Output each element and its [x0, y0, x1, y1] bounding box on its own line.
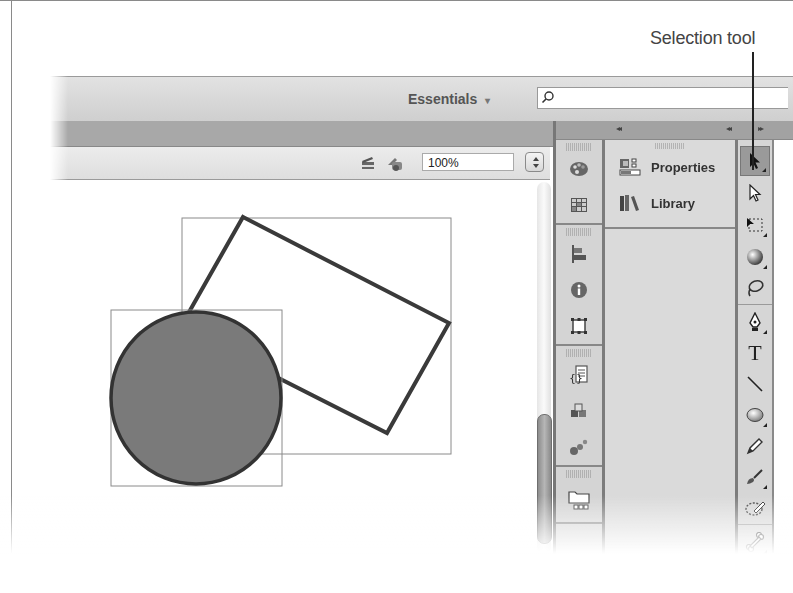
library-icon: [619, 194, 641, 212]
pencil-tool[interactable]: [740, 431, 770, 461]
info-icon: [570, 281, 588, 299]
flyout-indicator: [763, 423, 767, 427]
align-panel-button[interactable]: [556, 236, 602, 272]
stage-canvas[interactable]: [50, 180, 535, 593]
line-tool[interactable]: [740, 369, 770, 399]
search-icon: [541, 90, 555, 104]
dock-group-project: [556, 470, 602, 524]
zoom-stepper[interactable]: [525, 152, 544, 172]
scrollbar-thumb[interactable]: [537, 414, 552, 544]
brush-icon: [745, 467, 765, 487]
grip-handle[interactable]: [655, 143, 685, 149]
gray-circle-shape[interactable]: [111, 312, 281, 484]
actions-code-icon: {}: [569, 365, 589, 385]
transform-panel-button[interactable]: [556, 308, 602, 344]
info-panel-button[interactable]: [556, 272, 602, 308]
selection-tool[interactable]: [740, 146, 770, 176]
flyout-indicator: [762, 168, 766, 172]
tab-properties[interactable]: Properties: [605, 149, 735, 185]
properties-icon: [619, 158, 641, 176]
workspace-label: Essentials: [408, 91, 477, 107]
3d-sphere-icon: [745, 247, 765, 267]
pen-nib-icon: [747, 312, 763, 332]
clapperboard-icon[interactable]: [360, 156, 376, 170]
text-t-icon: T: [748, 340, 761, 366]
transform-icon: [570, 317, 588, 335]
grip-handle[interactable]: [566, 143, 592, 151]
figure-border-left: [11, 0, 12, 593]
stage-artwork: [50, 180, 535, 593]
properties-library-panel: Properties Library: [605, 140, 735, 593]
hollow-arrow-icon: [748, 184, 762, 202]
flyout-indicator: [763, 330, 767, 334]
bone-icon: [745, 532, 765, 552]
grip-handle[interactable]: [566, 228, 592, 236]
tab-label: Library: [651, 196, 695, 211]
deco-icon: [744, 499, 766, 517]
help-search-field[interactable]: [537, 87, 788, 109]
edit-symbols-icon[interactable]: [386, 156, 404, 172]
selection-tool-callout: Selection tool: [650, 28, 755, 49]
collapse-panel-icon[interactable]: ◂◂: [726, 124, 730, 133]
svg-text:{}: {}: [569, 372, 583, 385]
dock-group-color: [556, 143, 602, 225]
tool-separator: [738, 304, 772, 305]
motion-presets-panel-button[interactable]: [556, 429, 602, 465]
swatches-grid-icon: [571, 198, 587, 212]
stage-vertical-scrollbar[interactable]: [535, 180, 553, 560]
panel-tabs: Properties Library: [605, 143, 735, 229]
zoom-level-field[interactable]: 100%: [422, 153, 514, 171]
oval-icon: [745, 406, 765, 424]
collapse-dock-icon[interactable]: ◂◂: [616, 124, 620, 133]
color-palette-icon: [569, 161, 589, 177]
arrow-cursor-icon: [748, 152, 762, 170]
dock-group-code: {}: [556, 349, 602, 467]
actions-panel-button[interactable]: {}: [556, 357, 602, 393]
motion-presets-icon: [569, 438, 589, 456]
tab-label: Properties: [651, 160, 715, 175]
workspace-switcher[interactable]: Essentials▾: [408, 91, 490, 107]
subselection-tool[interactable]: [740, 178, 770, 208]
dock-group-align: [556, 228, 602, 346]
paint-bucket-icon: [745, 564, 765, 582]
chevron-down-icon: ▾: [485, 95, 490, 106]
caret-down-icon: [533, 164, 539, 168]
paint-bucket-tool[interactable]: [740, 558, 770, 588]
lasso-tool[interactable]: [740, 273, 770, 303]
3d-rotation-tool[interactable]: [740, 242, 770, 272]
application-bar: Essentials▾: [50, 76, 793, 122]
flash-application-window: Essentials▾ 100%: [50, 76, 793, 593]
tools-panel: T: [738, 140, 774, 593]
grip-handle[interactable]: [566, 470, 592, 478]
line-icon: [745, 374, 765, 394]
flyout-indicator: [763, 550, 767, 554]
flyout-indicator: [763, 233, 767, 237]
oval-tool[interactable]: [740, 400, 770, 430]
edit-bar: 100%: [50, 147, 550, 180]
color-panel-button[interactable]: [556, 151, 602, 187]
document-tab-bar: [50, 121, 553, 147]
tab-library[interactable]: Library: [605, 185, 735, 221]
components-panel-button[interactable]: [556, 393, 602, 429]
panel-icon-dock: {}: [556, 140, 605, 593]
flyout-indicator: [763, 485, 767, 489]
caret-up-icon: [533, 157, 539, 161]
pencil-icon: [745, 436, 765, 456]
brush-tool[interactable]: [740, 462, 770, 492]
text-tool[interactable]: T: [740, 338, 770, 368]
pen-tool[interactable]: [740, 307, 770, 337]
deco-tool[interactable]: [740, 493, 770, 523]
align-icon: [571, 245, 587, 263]
tool-separator: [738, 524, 772, 525]
free-transform-tool[interactable]: [740, 210, 770, 240]
swatches-panel-button[interactable]: [556, 187, 602, 223]
grip-handle[interactable]: [566, 349, 592, 357]
expand-tools-icon[interactable]: ▸▸: [758, 124, 762, 133]
lasso-icon: [745, 278, 765, 298]
free-transform-icon: [745, 216, 765, 234]
flyout-indicator: [763, 265, 767, 269]
callout-leader-line: [752, 52, 754, 170]
components-icon: [569, 402, 589, 420]
project-panel-button[interactable]: [556, 478, 602, 522]
bone-tool[interactable]: [740, 527, 770, 557]
